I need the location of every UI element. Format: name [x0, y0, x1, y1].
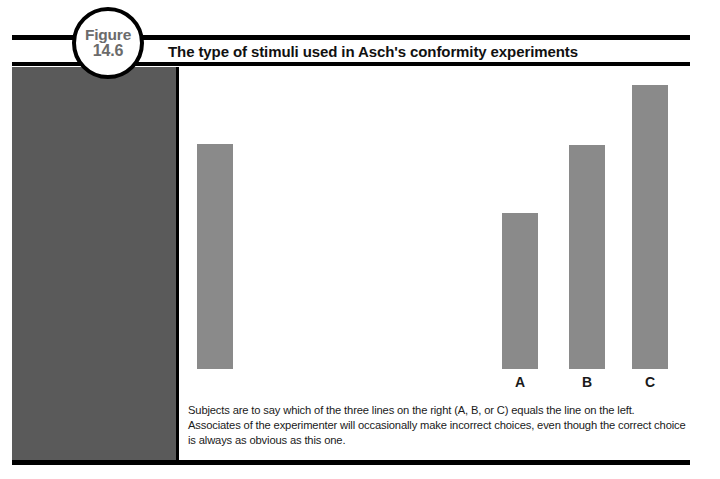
stimulus-plot-area	[179, 67, 690, 461]
figure-number-badge: Figure 14.6	[72, 7, 144, 79]
figure-badge-number: 14.6	[93, 43, 123, 59]
figure-bottom-rule	[12, 460, 690, 465]
stimulus-bar-label-a: A	[500, 374, 540, 390]
dark-side-panel	[12, 67, 176, 461]
figure-caption: Subjects are to say which of the three l…	[188, 403, 688, 449]
stimulus-bar-c	[632, 85, 668, 369]
figure-container: Figure 14.6 The type of stimuli used in …	[0, 0, 720, 479]
figure-badge-word: Figure	[85, 27, 131, 43]
stimulus-bar-label-b: B	[567, 374, 607, 390]
stimulus-bar-label-c: C	[630, 374, 670, 390]
stimulus-bar-a	[502, 213, 538, 369]
figure-title: The type of stimuli used in Asch's confo…	[168, 40, 688, 62]
stimulus-bar-reference	[197, 144, 233, 369]
stimulus-bar-b	[569, 145, 605, 369]
